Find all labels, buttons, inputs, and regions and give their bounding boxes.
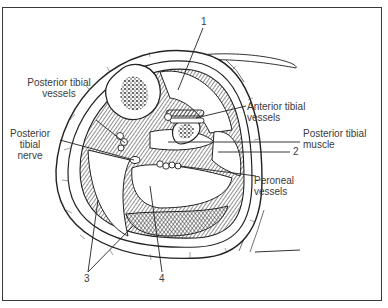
number-1: 1	[201, 16, 207, 27]
number-3: 3	[84, 273, 90, 284]
label-line: tibial	[4, 139, 56, 150]
leg-cross-section-illustration	[0, 0, 388, 308]
label-line: nerve	[4, 150, 56, 161]
number-4: 4	[159, 273, 165, 284]
label-line: Posterior tibial	[303, 128, 366, 139]
number-2: 2	[293, 146, 299, 157]
label-peroneal-vessels: Peroneal vessels	[254, 175, 294, 197]
label-line: vessels	[14, 88, 104, 99]
label-line: Peroneal	[254, 175, 294, 186]
label-line: muscle	[303, 139, 366, 150]
label-line: Posterior	[4, 128, 56, 139]
label-posterior-tibial-vessels: Posterior tibial vessels	[14, 77, 104, 99]
label-line: vessels	[254, 186, 294, 197]
label-line: Anterior tibial	[247, 101, 305, 112]
label-posterior-tibial-muscle: Posterior tibial muscle	[303, 128, 366, 150]
label-line: Posterior tibial	[14, 77, 104, 88]
label-anterior-tibial-vessels: Anterior tibial vessels	[247, 101, 305, 123]
label-line: vessels	[247, 112, 305, 123]
label-posterior-tibial-nerve: Posterior tibial nerve	[4, 128, 56, 161]
posterior-tibial-nerve-drawing	[130, 157, 140, 164]
